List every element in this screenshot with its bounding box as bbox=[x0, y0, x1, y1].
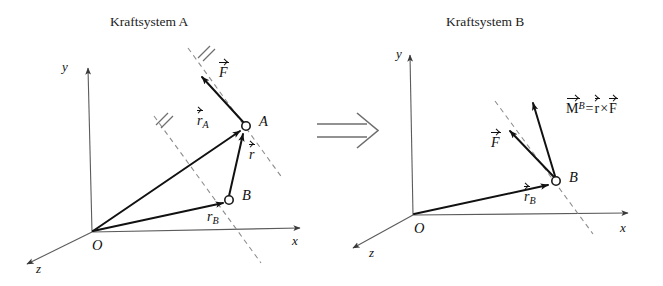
moment-equation: MB=r×F bbox=[566, 101, 617, 116]
panel-a-origin-label: O bbox=[92, 238, 102, 253]
panel-a-x-axis bbox=[92, 228, 300, 232]
r-a-subscript: A bbox=[202, 119, 208, 130]
panel-b-point-b-marker bbox=[552, 177, 560, 185]
panel-b-y-axis bbox=[410, 55, 413, 215]
panel-b-x-axis-label: x bbox=[620, 221, 626, 234]
panel-a-vectors bbox=[93, 77, 245, 231]
panel-a-x-axis-label: x bbox=[292, 234, 298, 247]
panel-a-axes bbox=[27, 68, 300, 264]
r-a-glyph: r bbox=[197, 114, 202, 128]
panel-b-z-axis bbox=[353, 215, 413, 248]
vector-r bbox=[229, 134, 243, 196]
equation-force-glyph: F bbox=[609, 102, 617, 116]
equals-sign: = bbox=[585, 101, 595, 116]
force-system-figure: Kraftsystem A Kraftsystem B bbox=[0, 0, 663, 286]
cross-product-sign: × bbox=[599, 101, 609, 116]
panel-b-z-axis-label: z bbox=[369, 246, 374, 259]
panel-a-point-b-label: B bbox=[242, 188, 251, 203]
panel-b-axes bbox=[353, 55, 628, 248]
moment-superscript: B bbox=[578, 100, 584, 111]
point-a-marker bbox=[242, 122, 250, 130]
panel-b-point-b-label: B bbox=[569, 170, 578, 185]
panel-a-force-label: F bbox=[219, 66, 228, 80]
panel-b-r-b-label: rB bbox=[524, 190, 536, 206]
panel-a-y-axis bbox=[88, 68, 92, 232]
moment-glyph: M bbox=[566, 102, 578, 116]
panel-a-r-a-label: rA bbox=[197, 114, 209, 130]
panel-b-y-axis-label: y bbox=[396, 47, 402, 60]
panel-a-z-axis bbox=[27, 232, 92, 264]
panel-a-point-a-label: A bbox=[259, 114, 268, 129]
force-glyph: F bbox=[219, 66, 228, 80]
panel-a-z-axis-label: z bbox=[36, 262, 41, 275]
r-b-subscript: B bbox=[212, 215, 218, 226]
panel-b-x-axis bbox=[413, 213, 628, 215]
r-glyph: r bbox=[249, 148, 254, 162]
panel-b-force-label: F bbox=[491, 136, 500, 150]
panel-a-y-axis-label: y bbox=[62, 60, 68, 73]
panel-a-r-label: r bbox=[249, 148, 254, 162]
parallel-tick-upper bbox=[198, 46, 215, 61]
panel-b-origin-label: O bbox=[414, 221, 424, 236]
panel-b-r-b-subscript: B bbox=[529, 195, 535, 206]
panel-b-r-b-glyph: r bbox=[524, 190, 529, 204]
parallel-tick-lower bbox=[156, 113, 173, 128]
implication-arrow-icon bbox=[317, 113, 378, 148]
panel-b-vector-moment bbox=[533, 103, 555, 176]
panel-a-r-b-label: rB bbox=[207, 210, 219, 226]
equation-r-glyph: r bbox=[595, 102, 600, 116]
point-b-marker bbox=[225, 196, 233, 204]
panel-b-force-glyph: F bbox=[491, 136, 500, 150]
